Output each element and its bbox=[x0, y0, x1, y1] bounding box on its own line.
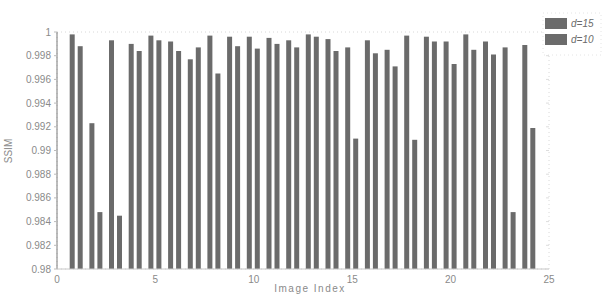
bar bbox=[463, 34, 468, 269]
bar bbox=[129, 44, 134, 269]
y-tick-label: 0.992 bbox=[26, 121, 51, 132]
bar bbox=[353, 139, 358, 269]
bar bbox=[267, 38, 272, 269]
bar bbox=[345, 47, 350, 269]
legend-swatch bbox=[545, 18, 567, 29]
bar bbox=[286, 40, 291, 269]
bar bbox=[326, 39, 331, 269]
bar bbox=[314, 37, 319, 269]
bar-series bbox=[70, 34, 536, 269]
y-tick-label: 1 bbox=[45, 27, 51, 38]
bar bbox=[207, 36, 212, 269]
bar bbox=[188, 59, 193, 269]
y-tick-label: 0.99 bbox=[32, 145, 52, 156]
y-tick-label: 0.988 bbox=[26, 169, 51, 180]
y-tick-label: 0.994 bbox=[26, 98, 51, 109]
bar bbox=[412, 140, 417, 269]
bar bbox=[255, 49, 260, 269]
bar bbox=[471, 50, 476, 269]
bar bbox=[530, 128, 535, 269]
bar bbox=[235, 46, 240, 269]
bar bbox=[432, 42, 437, 270]
legend: d=15d=10 bbox=[543, 13, 601, 55]
bar bbox=[334, 51, 339, 269]
x-tick-label: 5 bbox=[153, 274, 159, 285]
x-tick-label: 25 bbox=[543, 274, 555, 285]
legend-label: d=15 bbox=[571, 18, 594, 29]
x-axis-label: Image Index bbox=[274, 283, 346, 294]
y-tick-label: 0.984 bbox=[26, 216, 51, 227]
x-tick-label: 15 bbox=[347, 274, 359, 285]
x-tick-label: 10 bbox=[248, 274, 260, 285]
bar bbox=[522, 45, 527, 269]
bar bbox=[306, 34, 311, 269]
y-tick-label: 0.986 bbox=[26, 192, 51, 203]
bar bbox=[137, 51, 142, 269]
bar bbox=[156, 40, 161, 269]
y-tick-label: 0.982 bbox=[26, 240, 51, 251]
bar bbox=[365, 40, 370, 269]
bar bbox=[385, 50, 390, 269]
bar bbox=[503, 47, 508, 269]
bar bbox=[97, 212, 102, 269]
bar bbox=[215, 74, 220, 270]
bar bbox=[424, 37, 429, 269]
y-tick-label: 0.98 bbox=[32, 264, 52, 275]
bar bbox=[275, 44, 280, 269]
y-tick-label: 0.996 bbox=[26, 74, 51, 85]
bar bbox=[196, 47, 201, 269]
bar bbox=[70, 34, 75, 269]
bar bbox=[78, 46, 83, 269]
bar bbox=[227, 37, 232, 269]
bar bbox=[491, 55, 496, 270]
y-tick-label: 0.998 bbox=[26, 50, 51, 61]
bar bbox=[483, 42, 488, 270]
bar bbox=[373, 53, 378, 269]
legend-swatch bbox=[545, 34, 567, 45]
x-tick-label: 0 bbox=[54, 274, 60, 285]
bar bbox=[452, 64, 457, 269]
bar bbox=[247, 37, 252, 269]
bar bbox=[148, 36, 153, 269]
bar bbox=[176, 51, 181, 269]
ssim-bar-chart: 0.980.9820.9840.9860.9880.990.9920.9940.… bbox=[0, 0, 613, 303]
bar bbox=[89, 123, 94, 269]
bar bbox=[444, 42, 449, 270]
bar bbox=[393, 66, 398, 269]
bar bbox=[294, 47, 299, 269]
bar bbox=[168, 42, 173, 270]
bar bbox=[404, 36, 409, 269]
bar bbox=[511, 212, 516, 269]
legend-label: d=10 bbox=[571, 34, 594, 45]
x-tick-label: 20 bbox=[445, 274, 457, 285]
bar bbox=[109, 40, 114, 269]
y-axis-label: SSIM bbox=[3, 139, 14, 163]
bar bbox=[117, 216, 122, 269]
